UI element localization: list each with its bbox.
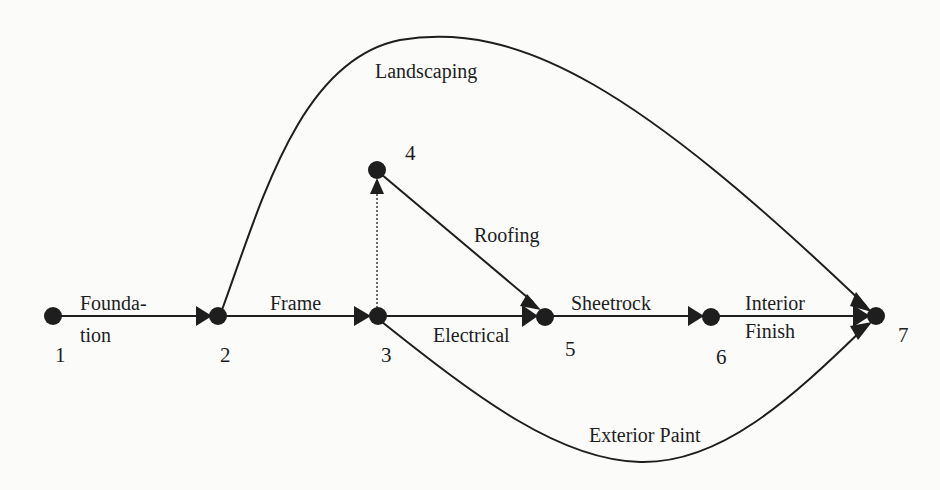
node-label-2: 2 (220, 344, 231, 366)
node-2 (209, 307, 227, 325)
node-label-4: 4 (405, 142, 416, 164)
label-foundation-1: Founda- (80, 292, 147, 314)
label-foundation-2: tion (80, 324, 111, 346)
edge-landscaping (222, 37, 872, 312)
arrowhead-icon (354, 306, 371, 326)
node-4 (368, 161, 386, 179)
node-label-5: 5 (565, 338, 576, 360)
node-label-6: 6 (716, 346, 727, 368)
node-3 (369, 307, 387, 325)
arrowhead-icon (688, 306, 704, 326)
node-7 (867, 307, 885, 325)
label-landscaping: Landscaping (375, 60, 477, 82)
label-interior-finish-1: Interior (745, 292, 805, 314)
node-1 (44, 307, 62, 325)
node-label-1: 1 (55, 344, 66, 366)
label-roofing: Roofing (474, 224, 540, 246)
label-exterior-paint: Exterior Paint (589, 424, 701, 446)
label-interior-finish-2: Finish (745, 320, 795, 342)
label-electrical: Electrical (433, 324, 510, 346)
edge-dummy-3-4 (370, 178, 384, 312)
label-sheetrock: Sheetrock (571, 292, 651, 314)
node-label-3: 3 (381, 344, 392, 366)
node-6 (702, 308, 720, 326)
arrowhead-icon (370, 178, 384, 194)
node-5 (536, 308, 554, 326)
label-frame: Frame (270, 292, 321, 314)
node-label-7: 7 (898, 324, 909, 346)
network-diagram: Founda- tion Frame Landscaping Electrica… (0, 0, 940, 490)
